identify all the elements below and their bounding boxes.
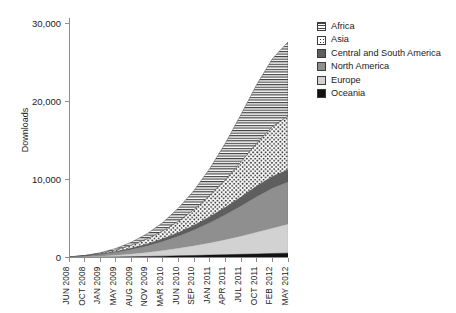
legend-label-oceania: Oceania [331,89,365,98]
y-tick-label: 0 [56,252,61,263]
y-tick-label: 10,000 [32,174,61,185]
central-south-america-swatch [317,49,326,58]
x-tick-label: OCT 2008 [78,266,87,305]
x-tick-label: JUN 2008 [62,266,71,304]
legend-label-africa: Africa [331,22,355,31]
x-tick-label: JAN 2011 [203,266,212,303]
x-tick-label: MAR 2010 [156,266,165,307]
legend-label-north-america: North America [331,62,389,71]
x-tick-label: AUG 2009 [125,266,134,306]
legend-label-central-south-america: Central and South America [331,49,441,58]
x-tick-label: FEB 2012 [265,266,274,304]
legend-label-asia: Asia [331,35,349,44]
north-america-swatch [317,62,326,71]
x-tick-label: JUL 2011 [234,266,243,302]
y-tick-label: 30,000 [32,18,61,29]
stack-layers [69,42,288,258]
x-tick-label: APR 2011 [218,266,227,305]
legend-item-africa[interactable]: Africa [317,20,453,33]
legend-item-europe[interactable]: Europe [317,74,453,87]
legend-item-north-america[interactable]: North America [317,60,453,73]
asia-swatch [317,36,326,45]
x-tick-label: OCT 2011 [250,266,259,305]
y-tick-label: 20,000 [32,96,61,107]
x-tick-label: SEP 2010 [187,266,196,305]
x-tick-label: NOV 2009 [140,266,149,306]
legend-label-europe: Europe [331,76,361,85]
x-tick-label: JAN 2009 [93,266,102,304]
europe-swatch [317,76,326,85]
legend-item-asia[interactable]: Asia [317,33,453,46]
x-tick-label: JUN 2010 [172,266,181,304]
y-axis-title: Downloads [20,107,30,152]
africa-swatch [317,22,326,31]
x-tick-label: MAY 2012 [281,266,290,305]
y-axis-tick-labels: 010,00020,00030,000 [32,18,61,263]
oceania-swatch [317,89,326,98]
stacked-area-chart: 010,00020,00030,000 JUN 2008OCT 2008JAN … [0,0,456,313]
x-axis-tick-labels: JUN 2008OCT 2008JAN 2009MAY 2009AUG 2009… [62,266,290,307]
y-axis-ticks [65,23,69,257]
legend-item-central-south-america[interactable]: Central and South America [317,47,453,60]
x-tick-label: MAY 2009 [109,266,118,305]
chart-legend: Africa Asia Central and South America No… [317,20,453,100]
x-axis-ticks [69,258,288,262]
legend-item-oceania[interactable]: Oceania [317,87,453,100]
